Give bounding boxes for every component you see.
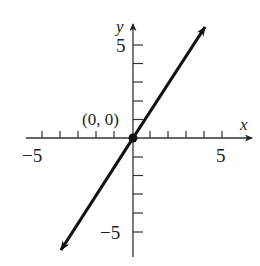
y-tick-label-5: 5	[116, 35, 126, 56]
coordinate-plane: y x 5 −5 −5 5 (0, 0)	[0, 0, 260, 266]
x-tick-label-neg5: −5	[22, 145, 42, 166]
data-line	[133, 27, 205, 138]
y-axis-label: y	[114, 17, 124, 36]
origin-label: (0, 0)	[82, 110, 119, 129]
origin-point	[129, 134, 138, 143]
y-tick-label-neg5: −5	[100, 222, 120, 243]
x-tick-label-5: 5	[216, 145, 226, 166]
x-axis-label: x	[239, 115, 248, 134]
data-line-lower	[61, 138, 133, 250]
